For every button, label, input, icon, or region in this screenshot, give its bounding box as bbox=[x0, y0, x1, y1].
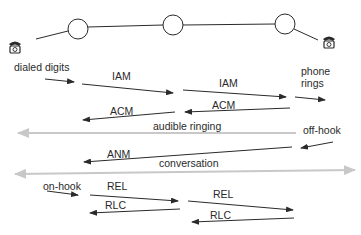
exchange-node-3 bbox=[275, 14, 295, 34]
exchange-node-1 bbox=[68, 19, 88, 39]
rel-2-label: REL bbox=[213, 188, 234, 200]
dialed-digits-label: dialed digits bbox=[14, 61, 69, 73]
rlc-1-arrow bbox=[90, 209, 180, 213]
iam-1-label: IAM bbox=[112, 70, 131, 82]
exchange-node-2 bbox=[163, 15, 183, 35]
conversation-arrow-left bbox=[15, 172, 180, 174]
phone-rings-label-2: rings bbox=[301, 77, 324, 89]
phone-rings-label-1: phone bbox=[301, 65, 330, 77]
caller-access-link bbox=[36, 31, 68, 39]
off-hook-label: off-hook bbox=[303, 124, 341, 136]
trunk-1 bbox=[88, 25, 163, 27]
anm-label: ANM bbox=[107, 148, 130, 160]
rlc-2-arrow bbox=[192, 218, 294, 222]
rel-1-arrow bbox=[90, 195, 178, 201]
acm-2-label: ACM bbox=[212, 99, 235, 111]
audible-ringing-label: audible ringing bbox=[153, 120, 221, 132]
acm-1-label: ACM bbox=[110, 105, 133, 117]
trunk-2 bbox=[183, 24, 275, 25]
callee-access-link bbox=[294, 29, 318, 40]
conversation-arrow-right bbox=[180, 170, 355, 172]
diagram-svg: dialed digits phone rings IAM IAM ACM AC… bbox=[0, 0, 361, 235]
rlc-2-label: RLC bbox=[210, 209, 231, 221]
rel-1-label: REL bbox=[107, 180, 128, 192]
conversation-label: conversation bbox=[159, 157, 219, 169]
ss7-call-flow-diagram: dialed digits phone rings IAM IAM ACM AC… bbox=[0, 0, 361, 235]
iam-2-arrow bbox=[183, 90, 286, 97]
on-hook-label: on-hook bbox=[43, 180, 82, 192]
rel-2-arrow bbox=[188, 201, 293, 210]
phone-rings-arrow bbox=[295, 97, 325, 100]
network-topology bbox=[36, 14, 318, 40]
telephone-icon bbox=[323, 37, 335, 49]
rlc-1-label: RLC bbox=[105, 199, 126, 211]
iam-2-label: IAM bbox=[219, 77, 238, 89]
off-hook-arrow bbox=[301, 142, 333, 148]
telephone-icon bbox=[9, 42, 21, 54]
dialed-digits-arrow bbox=[45, 79, 74, 82]
iam-1-arrow bbox=[82, 84, 173, 93]
acm-2-arrow bbox=[185, 108, 290, 112]
